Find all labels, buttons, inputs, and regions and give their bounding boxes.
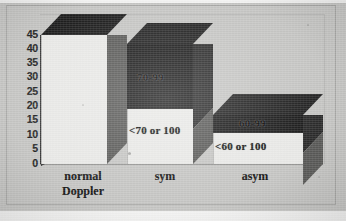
- category-label-asym-line1: asym: [215, 169, 295, 184]
- bar-normal-doppler-side-face: [107, 35, 127, 164]
- bar-asym-light-value-label: <60 or 100: [215, 140, 266, 152]
- bar-sym-top-face: [127, 23, 213, 44]
- bar-sym-segment-light: [127, 109, 193, 164]
- scan-speck: [318, 176, 320, 178]
- bar-normal-doppler-segment-light: [41, 35, 107, 164]
- category-label-asym: asym: [215, 169, 295, 184]
- scan-speck: [307, 24, 309, 26]
- bar-asym-dark-value-label: 60-99: [239, 117, 266, 129]
- bar-asym-top-face: [213, 94, 323, 115]
- category-label-sym-line1: sym: [130, 169, 200, 184]
- scan-speck: [128, 152, 131, 155]
- chart-screenshot: 45 40 35 30 25 20 15 10 5 0: [0, 0, 346, 221]
- category-label-normal-doppler-line2: Doppler: [38, 184, 128, 199]
- category-label-normal-doppler: normal Doppler: [38, 169, 128, 199]
- scan-speck: [82, 104, 84, 106]
- category-label-normal-doppler-line1: normal: [38, 169, 128, 184]
- bar-sym-light-value-label: <70 or 100: [129, 124, 180, 136]
- category-label-sym: sym: [130, 169, 200, 184]
- bar-sym-dark-value-label: 70-99: [137, 71, 164, 83]
- bar-normal-doppler-top-face: [41, 14, 127, 35]
